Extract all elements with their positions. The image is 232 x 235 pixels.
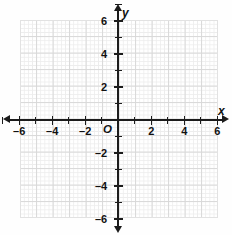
x-axis-tick: [184, 116, 186, 125]
y-axis-tick: [115, 202, 122, 203]
x-axis-tick-label: 4: [181, 126, 187, 137]
x-axis-tick-label: –2: [79, 126, 91, 137]
coordinate-plane-figure: –6–4–2246642–2–4–6 O x y: [0, 0, 232, 235]
y-axis-tick: [114, 185, 123, 187]
x-axis-tick: [19, 116, 21, 125]
y-axis-tick: [115, 136, 122, 137]
y-axis-tick-label: –4: [0, 181, 107, 192]
x-axis-tick: [2, 117, 3, 124]
x-axis-tick: [167, 117, 168, 124]
x-axis-tick-label: 6: [214, 126, 220, 137]
y-axis-tick-label: 4: [0, 49, 107, 60]
y-axis-tick: [114, 86, 123, 88]
origin-label: O: [103, 124, 112, 135]
x-axis-tick: [200, 117, 201, 124]
y-axis-tick-label: –6: [0, 214, 107, 225]
y-axis-tick: [114, 53, 123, 55]
y-axis-tick-label: –2: [0, 148, 107, 159]
y-axis-tick: [115, 169, 122, 170]
y-axis-tick-label: 6: [0, 16, 107, 27]
x-axis-tick: [35, 117, 36, 124]
y-axis-line: [117, 10, 119, 228]
x-axis-tick: [151, 116, 153, 125]
x-axis-tick: [52, 116, 54, 125]
x-axis-tick: [85, 116, 87, 125]
x-axis-tick-label: –6: [13, 126, 25, 137]
x-axis-tick-label: 2: [148, 126, 154, 137]
x-axis-tick: [134, 117, 135, 124]
x-axis-tick-label: –4: [46, 126, 58, 137]
x-axis-line: [8, 119, 224, 121]
y-axis-tick: [115, 103, 122, 104]
x-axis-tick: [68, 117, 69, 124]
y-axis-tick: [115, 70, 122, 71]
x-axis-label: x: [218, 104, 225, 118]
y-axis-tick-label: 2: [0, 82, 107, 93]
y-axis-tick: [115, 4, 122, 5]
y-axis-label: y: [122, 6, 129, 20]
y-axis-tick: [114, 218, 123, 220]
y-axis-tick: [114, 20, 123, 22]
y-axis-tick: [114, 152, 123, 154]
y-axis-tick: [115, 37, 122, 38]
y-axis-arrow-down-icon: [114, 226, 122, 233]
x-axis-arrow-left-icon: [3, 115, 10, 123]
